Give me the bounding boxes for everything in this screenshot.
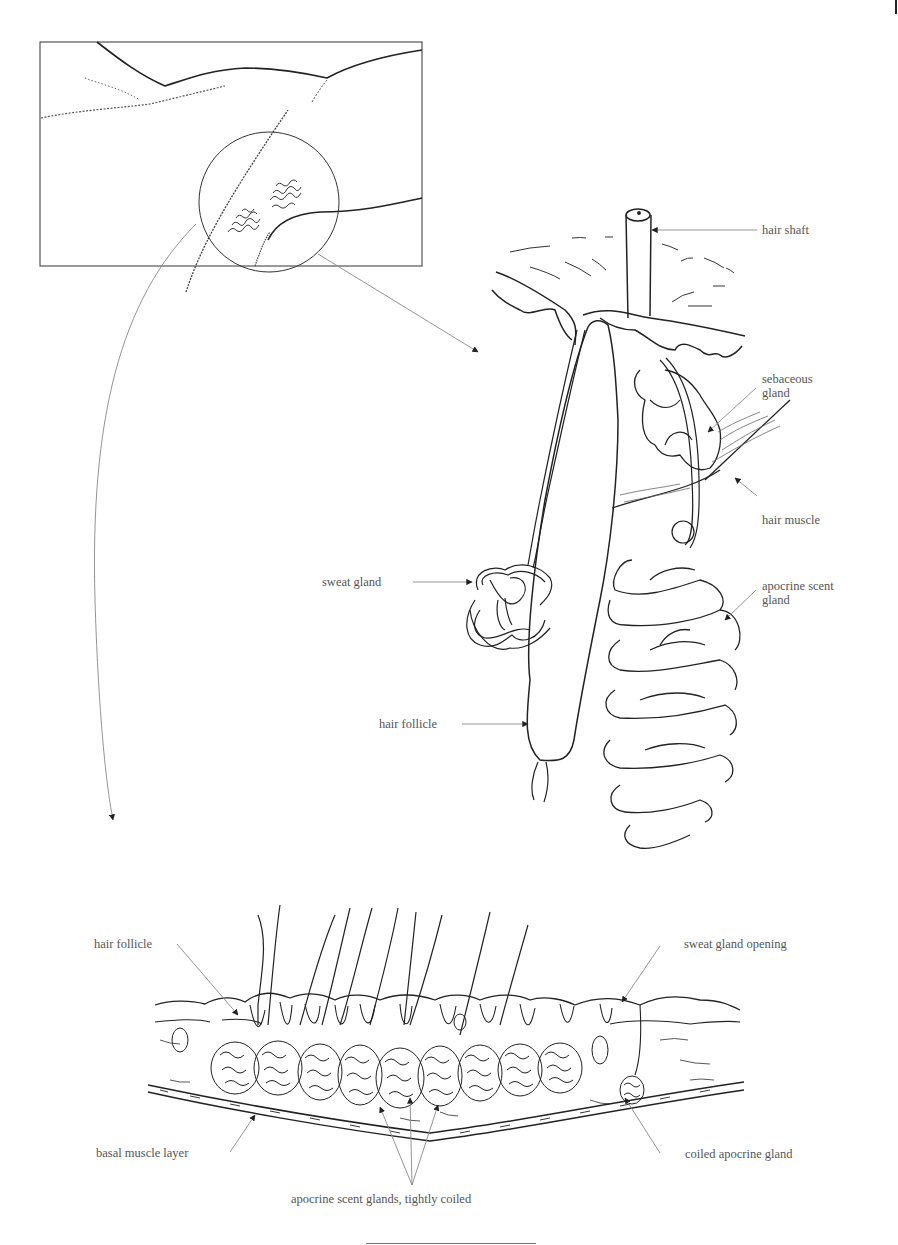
label-cross-hair-follicle: hair follicle bbox=[94, 937, 152, 951]
basal-muscle-bottom bbox=[148, 1090, 744, 1141]
hair-shaft-drawing bbox=[626, 215, 651, 318]
inset-fur-line bbox=[41, 86, 225, 118]
cross-section-hairs bbox=[258, 905, 528, 1035]
inset-to-cross-section-arrow bbox=[94, 224, 196, 820]
coiled-gland-clusters bbox=[172, 1014, 644, 1108]
diagram-page: hair shaft sebaceous gland hair muscle s… bbox=[0, 0, 898, 1245]
inset-to-follicle-arrow bbox=[318, 254, 478, 352]
apocrine-gland-drawing bbox=[604, 560, 740, 848]
label-hair-shaft: hair shaft bbox=[762, 223, 809, 237]
label-sweat-gland: sweat gland bbox=[322, 575, 381, 589]
illustration bbox=[0, 0, 898, 1245]
magnify-circle bbox=[199, 132, 339, 272]
label-apocrine-scent-gland-line2: gland bbox=[762, 593, 790, 607]
cross-section-leaders bbox=[177, 944, 660, 1185]
inset-frame bbox=[40, 42, 422, 266]
follicle-leaders bbox=[413, 230, 757, 724]
basal-muscle-top bbox=[148, 1082, 744, 1133]
label-basal-muscle-layer: basal muscle layer bbox=[96, 1146, 188, 1160]
inset-body-contour bbox=[97, 42, 422, 86]
label-apocrine-scent-gland-line1: apocrine scent bbox=[762, 579, 834, 593]
sebaceous-gland-drawing bbox=[635, 370, 721, 470]
hair-muscle-fibers bbox=[620, 412, 780, 502]
cross-section bbox=[148, 905, 744, 1141]
inset-panel bbox=[40, 42, 422, 292]
label-sebaceous-gland-line1: sebaceous bbox=[762, 372, 813, 386]
label-sweat-gland-opening: sweat gland opening bbox=[684, 937, 787, 951]
sweat-gland-drawing bbox=[467, 565, 552, 649]
label-coiled-apocrine-gland: coiled apocrine gland bbox=[685, 1147, 793, 1161]
label-hair-follicle: hair follicle bbox=[379, 717, 437, 731]
label-sebaceous-gland-line2: gland bbox=[762, 386, 790, 400]
follicle-detail bbox=[467, 209, 790, 848]
inset-gland-patch bbox=[228, 180, 301, 232]
inset-limb-contour bbox=[268, 198, 422, 240]
label-hair-muscle: hair muscle bbox=[762, 513, 820, 527]
footnote-rule bbox=[366, 1243, 536, 1244]
label-apocrine-scent-glands: apocrine scent glands, tightly coiled bbox=[291, 1192, 471, 1206]
hair-follicle-drawing bbox=[527, 321, 618, 761]
epidermis-top bbox=[155, 993, 740, 1010]
